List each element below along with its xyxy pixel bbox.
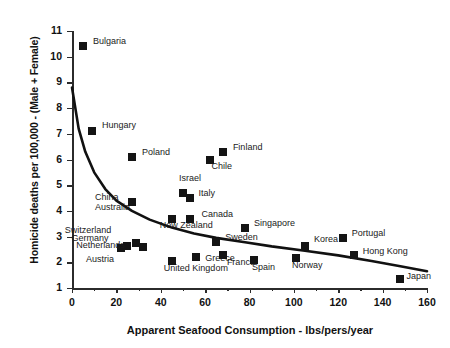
y-tick: 10 bbox=[67, 57, 72, 58]
x-tick-label: 140 bbox=[374, 296, 392, 308]
y-tick-label: 5 bbox=[56, 178, 62, 190]
x-tick-label: 0 bbox=[69, 296, 75, 308]
x-tick-minor bbox=[405, 288, 406, 291]
y-tick-label: 2 bbox=[56, 255, 62, 267]
y-tick: 4 bbox=[67, 211, 72, 212]
x-tick-label: 40 bbox=[155, 296, 167, 308]
x-tick bbox=[427, 288, 428, 293]
y-axis-title: Homicide deaths per 100,000 - (Male + Fe… bbox=[28, 30, 40, 270]
x-tick bbox=[383, 288, 384, 293]
x-tick bbox=[116, 288, 117, 293]
point-label: Italy bbox=[199, 189, 216, 198]
x-tick-label: 20 bbox=[111, 296, 123, 308]
x-tick-minor bbox=[139, 288, 140, 291]
point-label: Poland bbox=[142, 148, 170, 157]
point-label: China bbox=[95, 193, 119, 202]
y-tick-label: 8 bbox=[56, 101, 62, 113]
y-tick-label: 1 bbox=[56, 281, 62, 293]
chart-page: Homicide deaths per 100,000 - (Male + Fe… bbox=[0, 0, 450, 348]
plot-area: 1234567891011 020406080100120140160 Bulg… bbox=[72, 31, 427, 288]
y-tick: 7 bbox=[67, 134, 72, 135]
point-label: United Kingdom bbox=[164, 264, 228, 273]
point-label: Korea bbox=[314, 235, 338, 244]
data-marker bbox=[128, 153, 136, 161]
point-label: Netherlands bbox=[76, 241, 125, 250]
x-tick bbox=[205, 288, 206, 293]
point-label: New Zealand bbox=[160, 221, 213, 230]
x-tick-minor bbox=[316, 288, 317, 291]
point-label: Singapore bbox=[254, 219, 295, 228]
data-marker bbox=[219, 251, 227, 259]
x-tick-label: 100 bbox=[285, 296, 303, 308]
point-label: Canada bbox=[202, 210, 234, 219]
y-tick-label: 4 bbox=[56, 204, 62, 216]
point-label: Bulgaria bbox=[93, 37, 126, 46]
x-tick bbox=[294, 288, 295, 293]
data-marker bbox=[212, 238, 220, 246]
y-tick-label: 3 bbox=[56, 230, 62, 242]
y-tick: 9 bbox=[67, 82, 72, 83]
data-marker bbox=[139, 243, 147, 251]
data-marker bbox=[350, 251, 358, 259]
point-label: Spain bbox=[252, 263, 275, 272]
y-tick-label: 11 bbox=[51, 24, 62, 36]
y-tick: 2 bbox=[67, 262, 72, 263]
data-marker bbox=[192, 253, 200, 261]
data-marker bbox=[186, 194, 194, 202]
x-tick-minor bbox=[360, 288, 361, 291]
point-label: Sweden bbox=[225, 233, 258, 242]
y-tick: 5 bbox=[67, 185, 72, 186]
data-marker bbox=[241, 224, 249, 232]
x-tick-minor bbox=[227, 288, 228, 291]
data-marker bbox=[339, 234, 347, 242]
point-label: Austria bbox=[86, 255, 114, 264]
y-tick: 6 bbox=[67, 160, 72, 161]
data-marker bbox=[301, 242, 309, 250]
x-axis-title: Apparent Seafood Consumption - lbs/pers/… bbox=[72, 324, 428, 336]
data-marker bbox=[79, 42, 87, 50]
y-tick: 8 bbox=[67, 108, 72, 109]
point-label: Japan bbox=[406, 272, 431, 281]
y-tick-label: 7 bbox=[56, 127, 62, 139]
y-tick-label: 9 bbox=[56, 75, 62, 87]
y-tick-label: 6 bbox=[56, 153, 62, 165]
x-tick-minor bbox=[272, 288, 273, 291]
x-tick-minor bbox=[94, 288, 95, 291]
y-tick: 11 bbox=[67, 31, 72, 32]
y-tick-label: 10 bbox=[50, 50, 62, 62]
point-label: Portugal bbox=[352, 229, 386, 238]
point-label: Australia bbox=[95, 203, 130, 212]
point-label: Israel bbox=[179, 174, 201, 183]
data-marker bbox=[88, 127, 96, 135]
x-tick bbox=[250, 288, 251, 293]
point-label: Hungary bbox=[102, 121, 136, 130]
x-tick-label: 60 bbox=[199, 296, 211, 308]
y-axis-line bbox=[72, 31, 74, 288]
point-label: Hong Kong bbox=[363, 247, 408, 256]
data-marker bbox=[219, 148, 227, 156]
data-marker bbox=[396, 275, 404, 283]
x-tick-minor bbox=[183, 288, 184, 291]
x-tick-label: 120 bbox=[329, 296, 347, 308]
x-tick bbox=[338, 288, 339, 293]
x-tick bbox=[72, 288, 73, 293]
x-tick-label: 160 bbox=[418, 296, 436, 308]
point-label: Chile bbox=[212, 162, 233, 171]
x-tick bbox=[161, 288, 162, 293]
point-label: Finland bbox=[233, 143, 263, 152]
x-tick-label: 80 bbox=[244, 296, 256, 308]
point-label: Norway bbox=[292, 261, 323, 270]
